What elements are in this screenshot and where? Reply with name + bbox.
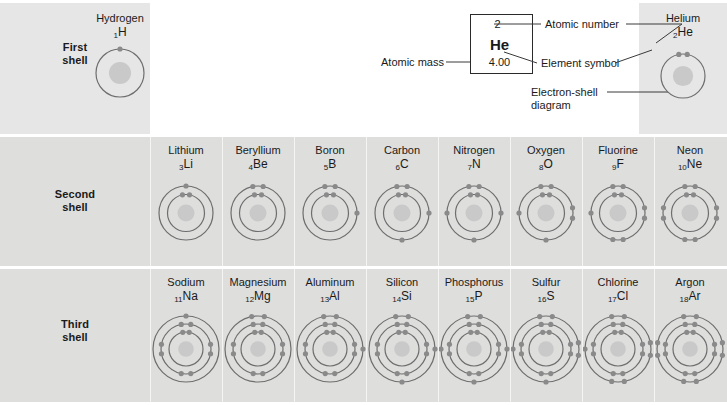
electron-shell-diagram: [227, 182, 289, 244]
element-symbol: 12Mg: [222, 289, 294, 307]
electron: [588, 210, 593, 215]
electron: [447, 351, 452, 356]
element-name: Beryllium: [222, 144, 294, 157]
electron: [591, 342, 596, 347]
nucleus: [322, 341, 338, 357]
electron: [693, 237, 698, 242]
electron: [399, 237, 404, 242]
atom-diagram-wrapper: [299, 182, 361, 248]
electron: [611, 371, 616, 376]
electron: [183, 313, 188, 318]
electron: [303, 342, 308, 347]
electron: [466, 184, 471, 189]
electron-shell-diagram: [149, 312, 223, 386]
electron: [537, 314, 542, 319]
element-name: Fluorine: [582, 144, 654, 157]
electron: [403, 330, 408, 335]
electron: [548, 322, 553, 327]
element-atomic-number: 1: [113, 31, 117, 40]
element-name: Neon: [654, 144, 726, 157]
nucleus: [394, 341, 410, 357]
electron: [249, 314, 254, 319]
electron: [548, 371, 553, 376]
electron: [570, 205, 575, 210]
electron: [714, 216, 719, 221]
electron: [692, 322, 697, 327]
element-symbol: 15P: [438, 289, 510, 307]
element-symbol: 18Ar: [654, 289, 726, 307]
element-atomic-number: 15: [466, 295, 475, 304]
electron: [231, 342, 236, 347]
electron: [395, 371, 400, 376]
element-name: Silicon: [366, 276, 438, 289]
element-name: Chlorine: [582, 276, 654, 289]
column-divider: [150, 269, 151, 402]
electron: [159, 342, 164, 347]
electron: [323, 322, 328, 327]
element-atomic-number: 16: [538, 295, 547, 304]
atom-diagram-wrapper: [509, 312, 583, 390]
atom-diagram-wrapper: [587, 182, 649, 248]
electron-shell-diagram: [515, 182, 577, 244]
electron-shell-diagram: [509, 312, 583, 386]
electron: [354, 210, 359, 215]
electron: [681, 314, 686, 319]
electron: [477, 184, 482, 189]
electron: [251, 322, 256, 327]
element-name: Boron: [294, 144, 366, 157]
row-label-third-shell: Third shell: [0, 318, 150, 344]
column-divider: [438, 137, 439, 266]
electron: [609, 314, 614, 319]
element-atomic-number: 3: [179, 163, 183, 172]
electron: [519, 342, 524, 347]
atom-diagram-wrapper: [155, 182, 217, 248]
electron: [516, 210, 521, 215]
element-atomic-number: 2: [673, 31, 677, 40]
electron: [661, 205, 666, 210]
electron: [609, 379, 614, 384]
element-name: Oxygen: [510, 144, 582, 157]
electron-shell-diagram: [653, 312, 727, 386]
electron: [375, 342, 380, 347]
electron: [188, 322, 193, 327]
electron: [712, 342, 717, 347]
electron: [684, 330, 689, 335]
electron-shell-diagram: [437, 312, 511, 386]
electron: [280, 342, 285, 347]
element-symbol: 2He: [647, 25, 719, 43]
electron: [324, 330, 329, 335]
electron: [538, 184, 543, 189]
electron: [540, 192, 545, 197]
column-divider: [294, 137, 295, 266]
atom-diagram-wrapper: [293, 312, 367, 390]
electron-shell-diagram: [659, 182, 721, 244]
electron: [683, 322, 688, 327]
atom-diagram-wrapper: [443, 182, 505, 248]
electron: [543, 237, 548, 242]
electron: [676, 52, 681, 57]
electron: [683, 371, 688, 376]
electron: [619, 330, 624, 335]
element-symbol: 11Na: [150, 289, 222, 307]
element-symbol: 3Li: [150, 157, 222, 175]
electron: [352, 342, 357, 347]
electron: [655, 353, 660, 358]
electron: [332, 371, 337, 376]
electron: [183, 183, 188, 188]
electron: [496, 351, 501, 356]
electron: [468, 192, 473, 197]
nucleus: [609, 204, 626, 221]
atom-diagram-wrapper: [515, 182, 577, 248]
nucleus: [538, 341, 554, 357]
electron: [682, 184, 687, 189]
element-name: Magnesium: [222, 276, 294, 289]
electron: [691, 330, 696, 335]
electron-shell-diagram: [587, 182, 649, 244]
element-atomic-number: 4: [248, 163, 252, 172]
electron: [694, 314, 699, 319]
electron: [208, 351, 213, 356]
column-divider: [150, 137, 151, 266]
nucleus: [610, 341, 626, 357]
electron: [476, 322, 481, 327]
element-atomic-number: 17: [608, 295, 617, 304]
